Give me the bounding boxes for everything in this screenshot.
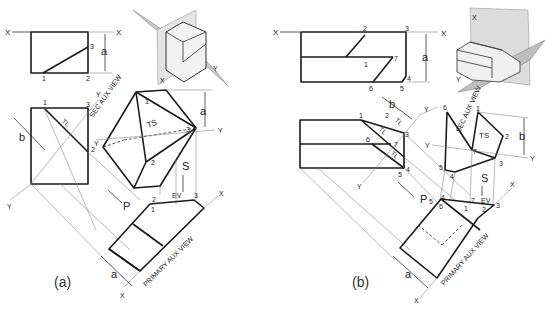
point-5: 5 xyxy=(400,85,404,92)
pictorial-axis-x: X xyxy=(472,14,477,21)
axis-label-x-left: X xyxy=(273,28,279,37)
point-3: 3 xyxy=(194,192,198,199)
dimension-b: b xyxy=(389,98,395,110)
point-1: 1 xyxy=(145,98,149,105)
secondary-aux-view-b: b Y Y TS 1 2 3 4 5 6 7 SEC AUX VIEW xyxy=(425,85,535,205)
point-6: 6 xyxy=(369,85,373,92)
axis-label-y-right: Y xyxy=(530,155,535,162)
point-7: 7 xyxy=(473,148,477,155)
true-shape-label: TS xyxy=(146,118,159,130)
axis-label-x-bottom: X xyxy=(120,292,125,299)
auxiliary-views-figure: X X a 1 2 3 Y X xyxy=(0,0,545,310)
true-shape-label: TS xyxy=(479,131,489,140)
axis-label-y-left: Y xyxy=(425,142,430,149)
edge-view-label: EV xyxy=(172,192,182,199)
point-3: 3 xyxy=(90,43,94,50)
point-3: 3 xyxy=(499,160,503,167)
point-2: 2 xyxy=(482,206,486,213)
point-2: 2 xyxy=(151,159,155,166)
axis-label-x-right: X xyxy=(116,28,122,37)
edge-view-label: EV xyxy=(481,197,491,204)
axis-label-x-bottom: X xyxy=(414,297,419,304)
axis-label-x-left: X xyxy=(5,28,11,37)
pictorial-b: Y X xyxy=(456,8,545,92)
dimension-a: a xyxy=(200,105,207,117)
sight-direction-s: S xyxy=(182,160,189,172)
true-length-label-1: TL xyxy=(393,116,404,127)
point-1: 1 xyxy=(359,112,363,119)
panel-caption-a: (a) xyxy=(54,274,71,290)
point-4: 4 xyxy=(441,194,445,201)
pictorial-axis-x: X xyxy=(160,77,165,84)
axis-label-x-right: X xyxy=(441,29,447,38)
side-view-a: Y Y 1 3 2 TL b SEC AUX VIEW xyxy=(7,73,140,263)
sec-aux-view-label: SEC AUX VIEW xyxy=(88,73,123,118)
dimension-b: b xyxy=(519,130,525,142)
point-3: 3 xyxy=(86,101,90,108)
point-6: 6 xyxy=(439,203,443,210)
pictorial-a: Y X xyxy=(133,10,228,86)
point-6: 6 xyxy=(443,104,447,111)
axis-label-x-top: X xyxy=(510,181,515,188)
secondary-aux-view-a: a Y Y TS 1 2 3 xyxy=(94,90,223,205)
dimension-b: b xyxy=(19,131,25,143)
point-2: 2 xyxy=(86,75,90,82)
point-1: 1 xyxy=(464,205,468,212)
dimension-a: a xyxy=(101,45,108,57)
front-view-a: X X a 1 2 3 xyxy=(5,28,122,82)
point-1: 1 xyxy=(43,99,47,106)
point-4: 4 xyxy=(450,173,454,180)
point-3: 3 xyxy=(405,25,409,32)
point-2: 2 xyxy=(505,133,509,140)
point-3: 3 xyxy=(186,126,190,133)
sight-direction-s: S xyxy=(481,172,488,184)
point-5: 5 xyxy=(439,164,443,171)
dimension-a: a xyxy=(111,268,118,280)
point-6: 6 xyxy=(366,136,370,143)
axis-label-x-top: X xyxy=(219,190,224,197)
point-2: 2 xyxy=(385,112,389,119)
side-view-b: Y Y b 1 2 3 4 5 6 7 TL TL TL xyxy=(300,97,470,260)
pictorial-axis-y: Y xyxy=(456,76,461,83)
point-3: 3 xyxy=(496,202,500,209)
point-5: 5 xyxy=(398,171,402,178)
panel-b: X X a 2 3 1 7 4 5 6 Y xyxy=(273,8,545,304)
axis-label-y-top: Y xyxy=(424,106,429,113)
dimension-a: a xyxy=(422,51,429,63)
pictorial-axis-y: Y xyxy=(213,65,218,72)
panel-caption-b: (b) xyxy=(352,274,369,290)
axis-label-y-right: Y xyxy=(218,127,223,134)
point-2: 2 xyxy=(91,146,95,153)
front-view-b: X X a 2 3 1 7 4 5 6 xyxy=(273,25,447,92)
point-1: 1 xyxy=(476,105,480,112)
axis-label-y-left: Y xyxy=(94,140,99,147)
point-2: 2 xyxy=(152,196,156,203)
primary-aux-view-b: X X EV 7 1 2 3 4 5 6 PRIMARY AUX VIEW a … xyxy=(393,172,515,304)
direction-arrow-p: P xyxy=(420,193,427,205)
point-4: 4 xyxy=(407,75,411,82)
point-7: 7 xyxy=(394,55,398,62)
point-1: 1 xyxy=(42,75,46,82)
point-7: 7 xyxy=(394,141,398,148)
panel-a: X X a 1 2 3 Y X xyxy=(5,10,228,299)
point-5: 5 xyxy=(429,198,433,205)
point-1: 1 xyxy=(364,61,368,68)
axis-label-y-bottom: Y xyxy=(7,203,12,210)
point-2: 2 xyxy=(363,25,367,32)
point-7: 7 xyxy=(471,197,475,204)
direction-arrow-p: P xyxy=(123,200,130,212)
axis-label-y-bottom: Y xyxy=(357,183,362,190)
dimension-a: a xyxy=(405,268,412,280)
point-1: 1 xyxy=(151,206,155,213)
